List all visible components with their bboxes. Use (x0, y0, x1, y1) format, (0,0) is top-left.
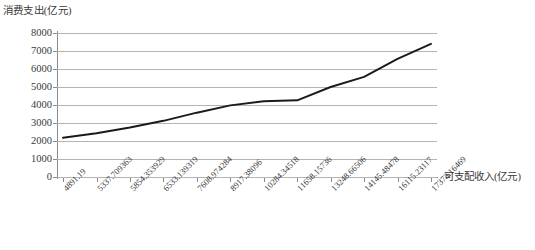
x-tick-label: 6533.139319 (161, 154, 200, 193)
line-chart: 消费支出(亿元) 0100020003000400050006000700080… (0, 0, 535, 250)
x-tick-label: 4891.19 (61, 166, 88, 193)
x-tick-label: 16115.23117 (396, 155, 435, 194)
x-tick-label: 8917.38096 (228, 157, 264, 193)
x-tick-label: 13248.66506 (329, 154, 368, 193)
x-axis-tick-labels: 4891.195337.7093635854.3539296533.139319… (0, 0, 535, 250)
x-tick-label: 14145.48478 (362, 154, 401, 193)
x-tick-label: 7608.974284 (195, 154, 234, 193)
x-tick-label: 5337.709363 (95, 154, 134, 193)
x-tick-label: 10284.34518 (262, 154, 301, 193)
x-tick-label: 11658.15736 (295, 154, 334, 193)
x-axis-title: 可支配收入(亿元) (444, 168, 521, 183)
